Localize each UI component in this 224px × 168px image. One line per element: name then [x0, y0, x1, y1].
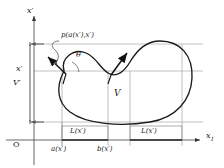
diagram-svg [0, 0, 224, 168]
origin-label: O [13, 140, 20, 149]
abscissa-label-b: b(x′) [97, 145, 112, 153]
point-tick-right [108, 75, 111, 84]
axis-label-x1: x1 [206, 131, 214, 142]
chord-label-right: L(x′) [141, 127, 157, 135]
figure-canvas: x′ x1 O x′ V′ V p(a(x′),x′) θ L(x′) L(x′… [0, 0, 224, 168]
abscissa-label-a: a(x′) [51, 145, 66, 153]
chord-label-left: L(x′) [70, 127, 86, 135]
normal-vector-right [108, 53, 127, 84]
y-tick-label-xprime: x′ [16, 64, 22, 73]
callout-leader [52, 41, 59, 64]
point-tick-left [63, 74, 66, 84]
theta-arc [72, 62, 79, 72]
angle-label-theta: θ [76, 50, 81, 59]
axes [6, 16, 200, 165]
axis-label-x1-sub: 1 [211, 136, 215, 142]
vprime-bracket [30, 42, 44, 124]
region-label-v: V [114, 88, 121, 98]
height-label-vprime: V′ [13, 78, 21, 87]
normal-arrow-right-shaft [111, 53, 127, 75]
axis-label-xprime-top: x′ [27, 6, 33, 15]
point-label-p: p(a(x′),x′) [61, 31, 94, 39]
